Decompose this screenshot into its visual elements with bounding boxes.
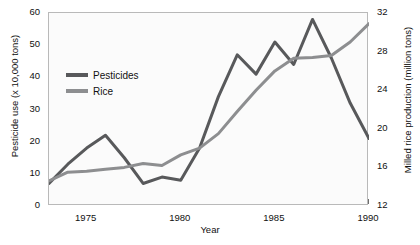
x-axis-title: Year xyxy=(0,224,420,235)
x-tick-label: 1975 xyxy=(69,213,103,223)
y-tick-label-right: 24 xyxy=(377,84,395,94)
y-tick-label-left: 20 xyxy=(24,136,40,146)
legend-swatch-pesticides xyxy=(66,73,88,77)
plot-area xyxy=(48,12,368,205)
y-tick-label-right: 20 xyxy=(377,123,395,133)
y-axis-title-right: Milled rice production (million tons) xyxy=(402,10,413,190)
x-tick-label: 1985 xyxy=(257,213,291,223)
x-tick-label: 1990 xyxy=(351,213,385,223)
legend-label-rice: Rice xyxy=(93,86,113,97)
y-axis-title-left: Pesticide use (x 10,000 tons) xyxy=(9,21,20,171)
y-tick-label-right: 16 xyxy=(377,161,395,171)
legend-item-pesticides: Pesticides xyxy=(66,68,139,82)
y-tick-label-right: 28 xyxy=(377,46,395,56)
y-tick-label-left: 50 xyxy=(24,39,40,49)
y-tick-label-left: 30 xyxy=(24,104,40,114)
y-tick-label-right: 32 xyxy=(377,7,395,17)
series-line-rice xyxy=(49,24,369,181)
legend-swatch-rice xyxy=(66,89,88,93)
legend-label-pesticides: Pesticides xyxy=(93,70,139,81)
x-tick-label: 1980 xyxy=(163,213,197,223)
y-tick-label-left: 60 xyxy=(24,7,40,17)
legend-item-rice: Rice xyxy=(66,84,139,98)
chart-legend: Pesticides Rice xyxy=(66,68,139,100)
y-tick-label-right: 12 xyxy=(377,200,395,210)
series-canvas xyxy=(49,13,369,206)
y-tick-label-left: 0 xyxy=(24,200,40,210)
y-tick-label-left: 10 xyxy=(24,168,40,178)
y-tick-label-left: 40 xyxy=(24,71,40,81)
series-line-pesticides xyxy=(49,19,369,183)
chart-figure: 0102030405060 121620242832 1975198019851… xyxy=(0,0,420,245)
